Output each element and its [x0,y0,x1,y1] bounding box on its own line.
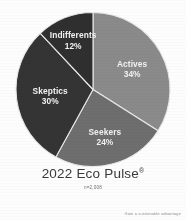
slice-label-name-seekers: Seekers [88,127,121,137]
chart-caption: 2022 Eco Pulse® n=2,008 [0,166,186,190]
slice-label-name-skeptics: Skeptics [33,86,68,96]
slice-label-value-skeptics: 30% [42,96,59,106]
pie-svg: Actives34%Seekers24%Skeptics30%Indiffere… [0,11,186,168]
eco-pulse-pie-chart: Actives34%Seekers24%Skeptics30%Indiffere… [0,0,186,220]
pie-chart-area: Actives34%Seekers24%Skeptics30%Indiffere… [0,11,186,168]
slice-label-name-actives: Actives [117,59,148,69]
slice-label-value-actives: 34% [124,69,141,79]
slice-label-name-indifferents: Indifferents [50,30,97,40]
footer-tagline: Gain a sustainable advantage [124,211,181,216]
chart-title: 2022 Eco Pulse® [0,166,186,182]
sample-size-note: n=2,008 [0,185,186,190]
chart-title-text: 2022 Eco Pulse [42,166,139,181]
slice-label-value-seekers: 24% [96,137,113,147]
slice-label-value-indifferents: 12% [65,41,82,51]
registered-mark-icon: ® [139,167,144,174]
